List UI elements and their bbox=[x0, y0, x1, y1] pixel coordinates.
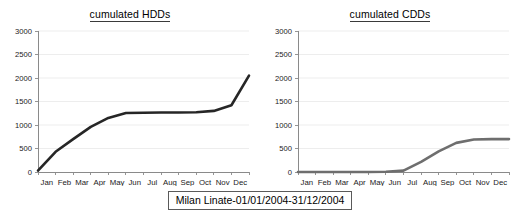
cdd-x-tick-label: Apr bbox=[353, 178, 366, 186]
plot-area-cdd: 050010001500200025003000JanFebMarAprMayJ… bbox=[260, 0, 520, 186]
hdd-x-tick-label: Aug bbox=[163, 178, 177, 186]
cdd-series-line bbox=[298, 139, 509, 172]
cdd-x-tick-label: Dec bbox=[493, 178, 507, 186]
cdd-y-tick-label: 2000 bbox=[275, 74, 292, 83]
cdd-y-tick-label: 0 bbox=[288, 168, 292, 177]
caption-container: Milan Linate-01/01/2004-31/12/2004 bbox=[0, 188, 520, 212]
hdd-x-tick-label: Oct bbox=[199, 178, 212, 186]
cdd-y-tick-label: 1000 bbox=[275, 121, 292, 130]
hdd-x-tick-label: Feb bbox=[58, 178, 72, 186]
hdd-x-tick-label: Jan bbox=[41, 178, 54, 186]
cdd-y-tick-label: 1500 bbox=[275, 97, 292, 106]
figure-caption: Milan Linate-01/01/2004-31/12/2004 bbox=[168, 191, 353, 210]
hdd-x-tick-label: Sep bbox=[181, 178, 196, 186]
hdd-y-tick-label: 0 bbox=[28, 168, 32, 177]
hdd-y-tick-label: 2500 bbox=[15, 50, 32, 59]
cdd-x-tick-label: Aug bbox=[423, 178, 437, 186]
chart-panel-cdd: cumulated CDDs 050010001500200025003000J… bbox=[260, 0, 520, 186]
hdd-series-line bbox=[38, 76, 249, 171]
hdd-x-tick-label: Apr bbox=[93, 178, 106, 186]
cdd-x-tick-label: Sep bbox=[441, 178, 456, 186]
cdd-y-tick-label: 500 bbox=[279, 144, 292, 153]
cdd-x-tick-label: Nov bbox=[476, 178, 490, 186]
cdd-x-tick-label: Feb bbox=[318, 178, 332, 186]
chart-panel-hdd: cumulated HDDs 050010001500200025003000J… bbox=[0, 0, 260, 186]
hdd-y-tick-label: 1500 bbox=[15, 97, 32, 106]
hdd-x-tick-label: Dec bbox=[233, 178, 247, 186]
hdd-y-tick-label: 3000 bbox=[15, 27, 32, 36]
cdd-x-tick-label: May bbox=[370, 178, 385, 186]
hdd-y-tick-label: 1000 bbox=[15, 121, 32, 130]
hdd-y-tick-label: 2000 bbox=[15, 74, 32, 83]
cdd-x-tick-label: Mar bbox=[335, 178, 349, 186]
hdd-y-tick-label: 500 bbox=[19, 144, 32, 153]
hdd-x-tick-label: Nov bbox=[216, 178, 230, 186]
cdd-y-tick-label: 2500 bbox=[275, 50, 292, 59]
cdd-x-tick-label: Jul bbox=[407, 178, 417, 186]
cdd-y-tick-label: 3000 bbox=[275, 27, 292, 36]
chart-figure: cumulated HDDs 050010001500200025003000J… bbox=[0, 0, 520, 212]
hdd-x-tick-label: Jun bbox=[128, 178, 141, 186]
hdd-x-tick-label: Jul bbox=[147, 178, 157, 186]
hdd-x-tick-label: Mar bbox=[75, 178, 89, 186]
cdd-x-tick-label: Jan bbox=[301, 178, 314, 186]
cdd-x-tick-label: Oct bbox=[459, 178, 472, 186]
plot-area-hdd: 050010001500200025003000JanFebMarAprMayJ… bbox=[0, 0, 260, 186]
hdd-x-tick-label: May bbox=[110, 178, 125, 186]
cdd-x-tick-label: Jun bbox=[388, 178, 401, 186]
